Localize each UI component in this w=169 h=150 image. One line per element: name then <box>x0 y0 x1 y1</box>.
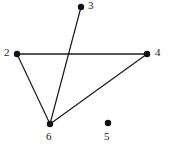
nodes-group <box>14 4 150 127</box>
graph-node-5[interactable] <box>105 120 111 126</box>
graph-node-label-5: 5 <box>104 131 110 142</box>
graph-node-label-2: 2 <box>4 47 10 58</box>
graph-edge-2-6 <box>17 54 50 124</box>
graph-node-4[interactable] <box>144 51 150 57</box>
graph-node-label-4: 4 <box>155 47 161 58</box>
graph-node-2[interactable] <box>14 51 20 57</box>
graph-node-3[interactable] <box>78 4 84 10</box>
graph-node-6[interactable] <box>47 121 53 127</box>
graph-node-label-6: 6 <box>46 131 52 142</box>
graph-edge-6-4 <box>50 54 147 124</box>
edges-group <box>17 7 147 124</box>
graph-node-label-3: 3 <box>88 0 94 11</box>
graph-edge-3-6 <box>50 7 81 124</box>
graph-figure: 32465 <box>0 0 169 150</box>
graph-canvas <box>0 0 169 150</box>
